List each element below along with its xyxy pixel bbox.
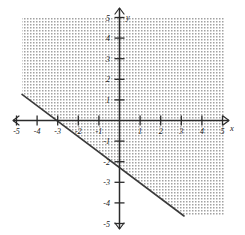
x-tick-label: -1 — [96, 127, 103, 136]
y-tick-label: 1 — [106, 96, 110, 105]
y-axis-label: y — [125, 12, 130, 22]
x-tick-label: -2 — [75, 127, 82, 136]
x-tick-label: -3 — [54, 127, 61, 136]
x-tick-label: 1 — [138, 127, 142, 136]
y-tick-label: -1 — [103, 137, 110, 146]
y-tick-label: -5 — [103, 220, 110, 229]
x-tick-label: -5 — [13, 127, 20, 136]
y-tick-label: -4 — [103, 199, 110, 208]
x-tick-label: 2 — [159, 127, 163, 136]
y-tick-label: -2 — [103, 158, 110, 167]
x-axis-label: x — [229, 123, 234, 133]
y-tick-label: 3 — [105, 55, 110, 64]
y-tick-label: 5 — [106, 14, 110, 23]
x-tick-label: 5 — [221, 127, 225, 136]
y-tick-label: 2 — [106, 75, 110, 84]
x-tick-label: -4 — [34, 127, 41, 136]
graph-canvas: -5 -4 -3 -2 -1 1 2 3 4 5 5 4 3 2 1 -1 -2… — [0, 0, 245, 235]
coordinate-graph: -5 -4 -3 -2 -1 1 2 3 4 5 5 4 3 2 1 -1 -2… — [0, 0, 245, 235]
y-tick-label: -3 — [103, 178, 110, 187]
x-tick-label: 4 — [200, 127, 204, 136]
x-tick-label: 3 — [178, 127, 183, 136]
y-tick-label: 4 — [106, 34, 110, 43]
